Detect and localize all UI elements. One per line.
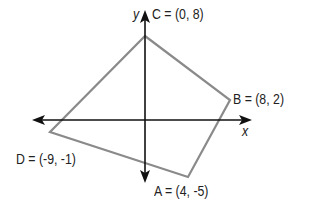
coordinate-diagram: y x C = (0, 8) B = (8, 2) A = (4, -5) D … [0,0,315,213]
point-a-label: A = (4, -5) [154,183,208,199]
point-b-label: B = (8, 2) [233,91,284,107]
y-axis-label: y [133,6,139,22]
quadrilateral [50,36,230,177]
point-c-label: C = (0, 8) [152,6,204,22]
point-d-label: D = (-9, -1) [16,151,76,167]
x-axis-label: x [242,123,248,139]
